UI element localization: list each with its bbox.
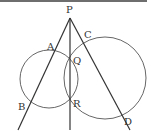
point-label-a: A (46, 41, 55, 52)
point-label-p: P (66, 4, 73, 15)
geometry-figure: PABCDQR (0, 0, 147, 139)
point-label-d: D (124, 116, 132, 127)
circles-group (20, 37, 146, 119)
line-PB (18, 18, 70, 130)
point-labels-group: PABCDQR (18, 4, 132, 127)
line-PD (70, 18, 130, 130)
point-label-q: Q (73, 55, 81, 66)
point-label-c: C (84, 29, 92, 40)
lines-group (18, 18, 130, 130)
point-label-r: R (73, 98, 81, 109)
point-label-b: B (18, 101, 25, 112)
